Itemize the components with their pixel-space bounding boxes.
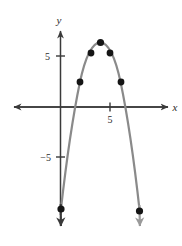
- parabola-graph-figure: 5 x 5 −5 y: [0, 0, 182, 246]
- x-axis-group: 5 x: [14, 101, 178, 125]
- data-point: [136, 207, 143, 214]
- y-axis-group: 5 −5 y: [40, 14, 65, 215]
- parabola-curve: [61, 42, 140, 211]
- coordinate-plane-svg: 5 x 5 −5 y: [0, 0, 182, 246]
- y-tick-label-5: 5: [45, 51, 50, 62]
- data-point: [57, 205, 64, 212]
- data-point: [107, 50, 114, 57]
- y-tick-label-negative-5: −5: [40, 152, 51, 163]
- x-tick-label-5: 5: [108, 114, 113, 125]
- plotted-points-group: [57, 39, 143, 215]
- data-point: [118, 79, 125, 86]
- parabola-curve-group: [61, 42, 140, 226]
- data-point: [77, 79, 84, 86]
- x-axis-label: x: [172, 101, 178, 113]
- y-axis-label: y: [56, 14, 62, 26]
- data-point: [97, 39, 104, 46]
- data-point: [88, 50, 95, 57]
